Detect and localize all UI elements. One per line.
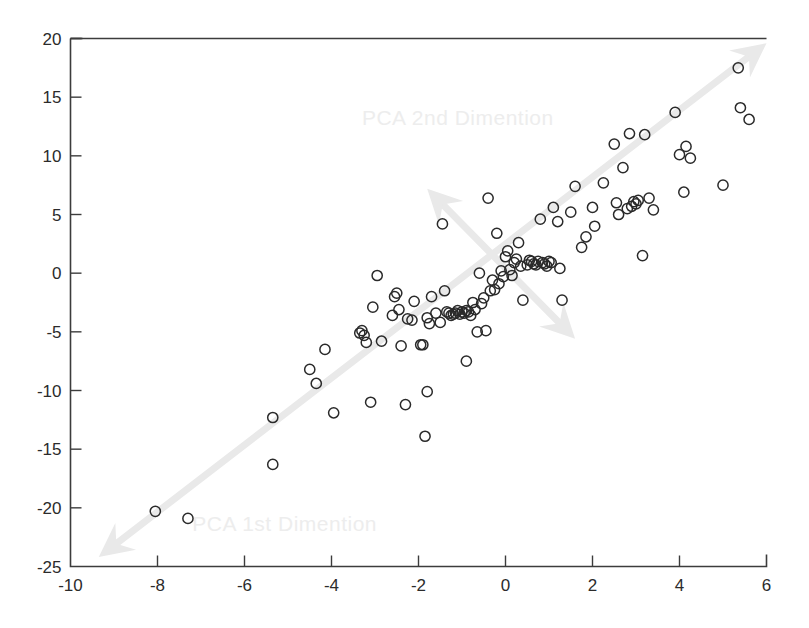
data-point xyxy=(648,205,658,215)
pca-annotation-layer: PCA 1st DimentionPCA 2nd Dimention xyxy=(99,43,767,557)
y-tick-label: 20 xyxy=(43,30,62,49)
data-point xyxy=(518,295,528,305)
data-point xyxy=(685,153,695,163)
data-point xyxy=(396,341,406,351)
data-point xyxy=(681,141,691,151)
data-point xyxy=(461,356,471,366)
data-point xyxy=(420,431,430,441)
data-point xyxy=(394,304,404,314)
data-point xyxy=(368,302,378,312)
y-tick-label: -25 xyxy=(37,558,62,577)
data-point xyxy=(372,270,382,280)
data-point xyxy=(587,202,597,212)
y-tick-label: -15 xyxy=(37,440,62,459)
data-point xyxy=(392,288,402,298)
data-point xyxy=(329,408,339,418)
pca-2nd-dimension-label: PCA 2nd Dimention xyxy=(362,106,554,129)
data-point xyxy=(387,310,397,320)
data-point xyxy=(503,246,513,256)
x-tick-label: -8 xyxy=(150,576,165,595)
pca-1st-dimension-label: PCA 1st Dimention xyxy=(192,512,377,535)
data-point xyxy=(624,128,634,138)
x-tick-label: 2 xyxy=(588,576,597,595)
pca-scatter-figure: PCA 1st DimentionPCA 2nd Dimention -25-2… xyxy=(0,0,809,628)
data-point xyxy=(483,193,493,203)
data-point xyxy=(590,221,600,231)
data-point xyxy=(644,193,654,203)
data-point xyxy=(305,364,315,374)
y-tick-label: 0 xyxy=(52,264,61,283)
x-tick-label: -6 xyxy=(237,576,252,595)
x-tick-label: 0 xyxy=(501,576,510,595)
x-tick-label: -2 xyxy=(411,576,426,595)
data-point xyxy=(577,242,587,252)
data-point-layer xyxy=(150,63,754,524)
data-point xyxy=(557,295,567,305)
scatter-plot-canvas: PCA 1st DimentionPCA 2nd Dimention -25-2… xyxy=(0,0,809,628)
data-point xyxy=(320,344,330,354)
data-point xyxy=(618,162,628,172)
data-point xyxy=(637,250,647,260)
data-point xyxy=(679,187,689,197)
data-point xyxy=(435,317,445,327)
data-point xyxy=(566,207,576,217)
data-point xyxy=(513,238,523,248)
y-tick-label: 15 xyxy=(43,88,62,107)
data-point xyxy=(553,216,563,226)
y-tick-label: 5 xyxy=(52,206,61,225)
data-point xyxy=(735,103,745,113)
data-point xyxy=(609,139,619,149)
data-point xyxy=(361,337,371,347)
y-tick-label: -10 xyxy=(37,382,62,401)
data-point xyxy=(366,397,376,407)
x-tick-label: -10 xyxy=(58,576,83,595)
data-point xyxy=(409,296,419,306)
data-point xyxy=(422,387,432,397)
data-point xyxy=(268,459,278,469)
data-point xyxy=(555,263,565,273)
data-point xyxy=(400,399,410,409)
data-point xyxy=(424,319,434,329)
x-tick-label: 4 xyxy=(675,576,684,595)
data-point xyxy=(474,268,484,278)
y-tick-label: -5 xyxy=(46,323,61,342)
data-point xyxy=(431,308,441,318)
data-point xyxy=(598,178,608,188)
data-point xyxy=(611,198,621,208)
data-point xyxy=(744,114,754,124)
data-point xyxy=(581,232,591,242)
y-tick-label: 10 xyxy=(43,147,62,166)
x-tick-label: -4 xyxy=(324,576,339,595)
x-tick-label: 6 xyxy=(762,576,771,595)
y-tick-label: -20 xyxy=(37,499,62,518)
data-point xyxy=(492,228,502,238)
data-point xyxy=(718,180,728,190)
